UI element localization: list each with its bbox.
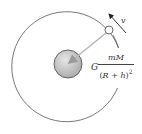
den-exponent: 2 xyxy=(129,68,133,75)
fraction-numerator: mM xyxy=(98,53,134,63)
den-plus: + xyxy=(109,71,121,80)
fraction-bar xyxy=(98,64,134,65)
force-fraction: mM (R + h)2 xyxy=(98,53,134,81)
fraction-denominator: (R + h)2 xyxy=(98,66,134,81)
gravity-force-formula: G mM (R + h)2 xyxy=(0,0,142,134)
